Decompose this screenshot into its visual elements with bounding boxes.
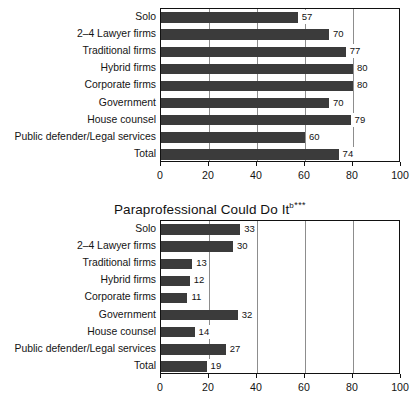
bar-row: 80	[161, 60, 399, 77]
x-axis-tick	[304, 162, 305, 166]
chart-2-plot-area: 333013121132142719	[160, 220, 400, 374]
bar-value-label: 33	[242, 222, 256, 236]
bar	[161, 224, 240, 235]
bar-row: 12	[161, 272, 399, 289]
bar	[161, 259, 192, 270]
bar	[161, 29, 329, 40]
x-axis-tick	[208, 162, 209, 166]
x-axis-tick-label: 20	[202, 380, 214, 394]
bar-row: 80	[161, 77, 399, 94]
category-label: Corporate firms	[84, 288, 156, 305]
bar-value-label: 11	[189, 290, 202, 304]
bar-value-label: 14	[197, 325, 211, 339]
x-axis-tick	[256, 162, 257, 166]
x-axis-tick	[352, 374, 353, 378]
bar-row: 27	[161, 341, 399, 358]
bar-value-label: 27	[228, 342, 242, 356]
x-axis-tick-label: 100	[391, 168, 409, 182]
category-label: Total	[134, 145, 156, 162]
chart-1-category-labels: Solo2–4 Lawyer firmsTraditional firmsHyb…	[0, 8, 156, 162]
bar	[161, 241, 233, 252]
category-label: Hybrid firms	[101, 271, 156, 288]
chart-2-title: Paraprofessional Could Do Itb***	[0, 195, 420, 216]
x-axis-tick-label: 40	[250, 380, 262, 394]
x-axis-tick	[400, 374, 401, 378]
bar-row: 70	[161, 26, 399, 43]
category-label: Solo	[135, 8, 156, 25]
x-axis-tick-label: 80	[346, 168, 358, 182]
bar	[161, 276, 190, 287]
x-axis-tick-label: 80	[346, 380, 358, 394]
bar-value-label: 79	[353, 113, 367, 127]
bar	[161, 293, 187, 304]
x-axis-tick	[304, 374, 305, 378]
bar-row: 79	[161, 112, 399, 129]
bar	[161, 310, 238, 321]
x-axis-tick	[208, 374, 209, 378]
category-label: House counsel	[87, 111, 156, 128]
bar-row: 74	[161, 146, 399, 163]
bar-row: 13	[161, 255, 399, 272]
bar	[161, 344, 226, 355]
bar-value-label: 13	[194, 256, 208, 270]
chart-2-x-axis: 020406080100	[160, 374, 400, 398]
category-label: 2–4 Lawyer firms	[77, 237, 156, 254]
bar-value-label: 70	[331, 96, 345, 110]
x-axis-tick	[160, 374, 161, 378]
chart-1-title	[0, 0, 420, 5]
category-label: Traditional firms	[82, 42, 156, 59]
bar	[161, 327, 195, 338]
chart-lawyer-could-do-it: Solo2–4 Lawyer firmsTraditional firmsHyb…	[0, 0, 420, 195]
category-label: Traditional firms	[82, 254, 156, 271]
bar-row: 70	[161, 95, 399, 112]
bar	[161, 149, 339, 160]
bar-value-label: 57	[300, 10, 314, 24]
x-axis-tick	[256, 374, 257, 378]
category-label: Hybrid firms	[101, 59, 156, 76]
category-label: Public defender/Legal services	[14, 128, 156, 145]
x-axis-tick	[352, 162, 353, 166]
bar-value-label: 32	[240, 308, 254, 322]
bar-row: 19	[161, 358, 399, 375]
bar-value-label: 70	[331, 27, 345, 41]
chart-paraprofessional-could-do-it: Paraprofessional Could Do Itb*** Solo2–4…	[0, 195, 420, 399]
bar	[161, 132, 305, 143]
chart-1-x-axis: 020406080100	[160, 162, 400, 186]
x-axis-tick-label: 60	[298, 168, 310, 182]
category-label: Public defender/Legal services	[14, 340, 156, 357]
chart-2-title-text: Paraprofessional Could Do It	[114, 202, 289, 217]
bar-value-label: 60	[307, 130, 321, 144]
bar-value-label: 80	[355, 78, 369, 92]
x-axis-tick-label: 0	[157, 168, 163, 182]
bar	[161, 12, 298, 23]
bar-row: 60	[161, 129, 399, 146]
x-axis-tick	[400, 162, 401, 166]
x-axis-tick-label: 40	[250, 168, 262, 182]
bar-value-label: 19	[209, 359, 223, 373]
bar-row: 77	[161, 43, 399, 60]
category-label: 2–4 Lawyer firms	[77, 25, 156, 42]
x-axis-tick-label: 60	[298, 380, 310, 394]
chart-1-bars: 577077808070796074	[161, 9, 399, 161]
x-axis-tick-label: 0	[157, 380, 163, 394]
bar	[161, 98, 329, 109]
category-label: Total	[134, 357, 156, 374]
category-label: Government	[99, 94, 156, 111]
bar-value-label: 77	[348, 44, 362, 58]
bar-row: 11	[161, 289, 399, 306]
bar-row: 32	[161, 307, 399, 324]
chart-1-plot-area: 577077808070796074	[160, 8, 400, 162]
bar	[161, 115, 351, 126]
category-label: Solo	[135, 220, 156, 237]
chart-2-bars: 333013121132142719	[161, 221, 399, 373]
bar	[161, 361, 207, 372]
bar-row: 57	[161, 9, 399, 26]
x-axis-tick-label: 100	[391, 380, 409, 394]
bar-value-label: 12	[192, 273, 206, 287]
bar-value-label: 30	[235, 239, 249, 253]
category-label: Government	[99, 306, 156, 323]
bar-value-label: 80	[355, 61, 369, 75]
chart-2-title-significance-stars: ***	[294, 200, 306, 210]
bar-row: 33	[161, 221, 399, 238]
x-axis-tick-label: 20	[202, 168, 214, 182]
